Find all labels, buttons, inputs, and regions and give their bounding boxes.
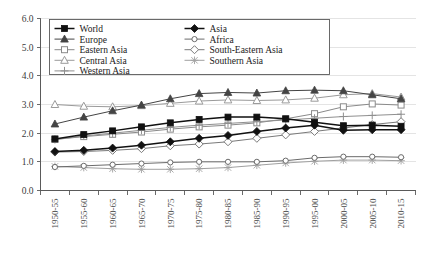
x-axis-ticks: 1950-551955-601960-651965-701970-751975-… bbox=[41, 191, 416, 229]
legend-label: Central Asia bbox=[80, 56, 128, 66]
chart-legend: WorldAsiaEuropeAfricaEastern AsiaSouth-E… bbox=[50, 20, 330, 77]
x-tick-label: 1985-90 bbox=[252, 198, 262, 228]
y-tick-label: 4.0 bbox=[22, 71, 34, 81]
data-point-marker bbox=[52, 136, 58, 142]
series-layer bbox=[51, 86, 405, 173]
data-point-marker bbox=[81, 132, 87, 138]
data-point-marker bbox=[254, 114, 260, 120]
x-tick-label: 1990-95 bbox=[281, 198, 291, 228]
x-tick-label: 1960-65 bbox=[108, 198, 118, 228]
data-point-marker bbox=[340, 104, 346, 110]
legend-label: South-Eastern Asia bbox=[210, 45, 284, 55]
x-tick-label: 1975-80 bbox=[194, 198, 204, 228]
data-point-marker bbox=[191, 57, 199, 65]
y-tick-label: 6.0 bbox=[22, 14, 34, 24]
legend-label: World bbox=[80, 24, 104, 34]
data-point-marker bbox=[195, 165, 203, 173]
data-point-marker bbox=[224, 131, 232, 139]
x-tick-label: 1950-55 bbox=[50, 198, 60, 228]
x-tick-label: 2005-10 bbox=[368, 198, 378, 228]
data-point-marker bbox=[368, 111, 376, 119]
y-tick-label: 5.0 bbox=[22, 43, 34, 53]
data-point-marker bbox=[398, 102, 404, 108]
legend-label: Africa bbox=[210, 35, 235, 45]
y-tick-label: 1.0 bbox=[22, 157, 34, 167]
data-point-marker bbox=[283, 116, 289, 122]
data-point-marker bbox=[167, 165, 175, 173]
data-point-marker bbox=[341, 154, 346, 159]
y-tick-label: 2.0 bbox=[22, 129, 34, 139]
data-point-marker bbox=[312, 155, 317, 160]
chart-canvas: 0.01.02.03.04.05.06.0 1950-551955-601960… bbox=[0, 0, 429, 254]
data-point-marker bbox=[167, 120, 173, 126]
legend-label: Western Asia bbox=[80, 66, 131, 76]
data-point-marker bbox=[398, 123, 404, 129]
x-tick-label: 1955-60 bbox=[79, 198, 89, 228]
x-tick-label: 2000-05 bbox=[339, 198, 349, 228]
data-point-marker bbox=[282, 124, 290, 132]
data-point-marker bbox=[51, 148, 59, 156]
data-point-marker bbox=[254, 159, 259, 164]
data-point-marker bbox=[312, 119, 318, 125]
data-point-marker bbox=[110, 162, 115, 167]
data-point-marker bbox=[110, 128, 116, 134]
data-point-marker bbox=[339, 113, 347, 121]
x-tick-label: 1980-85 bbox=[223, 198, 233, 228]
data-point-marker bbox=[52, 164, 57, 169]
data-point-marker bbox=[311, 86, 319, 93]
data-point-marker bbox=[224, 96, 232, 103]
data-point-marker bbox=[81, 163, 86, 168]
data-point-marker bbox=[197, 159, 202, 164]
y-tick-label: 3.0 bbox=[22, 100, 34, 110]
x-tick-label: 1995-00 bbox=[310, 198, 320, 228]
data-point-marker bbox=[225, 114, 231, 120]
data-point-marker bbox=[195, 134, 203, 142]
data-point-marker bbox=[51, 101, 59, 108]
data-point-marker bbox=[139, 161, 144, 166]
y-tick-label: 0.0 bbox=[22, 186, 34, 196]
data-point-marker bbox=[283, 158, 288, 163]
data-point-marker bbox=[369, 101, 375, 107]
data-point-marker bbox=[62, 47, 68, 53]
x-tick-label: 2010-15 bbox=[396, 198, 406, 228]
data-point-marker bbox=[398, 155, 403, 160]
legend-label: Eastern Asia bbox=[80, 45, 129, 55]
data-point-marker bbox=[224, 88, 232, 95]
data-point-marker bbox=[253, 127, 261, 135]
data-point-marker bbox=[196, 116, 202, 122]
data-point-marker bbox=[138, 124, 144, 130]
y-axis-ticks: 0.01.02.03.04.05.06.0 bbox=[22, 14, 41, 196]
data-point-marker bbox=[168, 160, 173, 165]
legend-label: Southern Asia bbox=[210, 56, 264, 66]
data-point-marker bbox=[62, 26, 68, 32]
data-point-marker bbox=[369, 122, 375, 128]
data-point-marker bbox=[192, 37, 197, 42]
data-point-marker bbox=[225, 159, 230, 164]
line-chart: 0.01.02.03.04.05.06.0 1950-551955-601960… bbox=[0, 0, 429, 254]
data-point-marker bbox=[340, 123, 346, 129]
x-tick-label: 1965-70 bbox=[137, 198, 147, 228]
data-point-marker bbox=[370, 154, 375, 159]
legend-label: Asia bbox=[210, 24, 228, 34]
x-tick-label: 1970-75 bbox=[166, 198, 176, 228]
legend-label: Europe bbox=[80, 35, 107, 45]
